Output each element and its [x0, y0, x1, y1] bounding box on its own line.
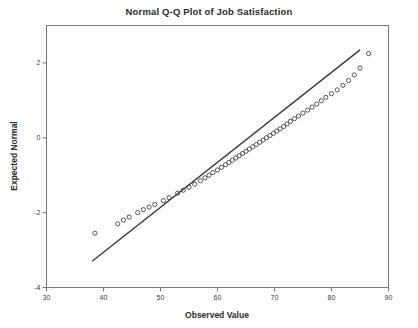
- x-tick-label: 80: [328, 294, 336, 301]
- x-tick-label: 30: [43, 294, 51, 301]
- x-tick-label: 60: [214, 294, 222, 301]
- y-tick-label: 0: [37, 134, 41, 141]
- y-tick-label: -2: [34, 209, 40, 216]
- x-axis-title: Observed Value: [185, 310, 249, 320]
- y-axis-title: Expected Normal: [9, 121, 19, 190]
- x-tick-label: 40: [100, 294, 108, 301]
- x-axis-ticks: 30405060708090: [43, 288, 393, 301]
- y-tick-label: -4: [34, 284, 40, 291]
- x-tick-label: 50: [157, 294, 165, 301]
- x-tick-label: 90: [385, 294, 393, 301]
- qq-plot-figure: 30405060708090 20-2-4 Observed Value Exp…: [0, 0, 418, 328]
- plot-frame: [47, 26, 389, 288]
- y-tick-label: 2: [37, 59, 41, 66]
- x-tick-label: 70: [271, 294, 279, 301]
- y-axis-ticks: 20-2-4: [34, 59, 46, 291]
- chart-canvas: Normal Q-Q Plot of Job Satisfaction 3040…: [0, 0, 418, 328]
